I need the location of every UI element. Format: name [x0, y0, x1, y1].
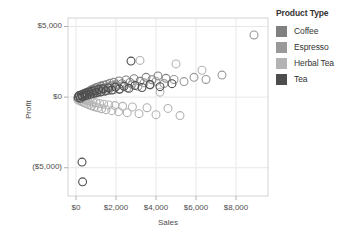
y-axis-title: Profit	[24, 100, 33, 119]
y-tick-label: ($5,000)	[32, 162, 62, 171]
data-point	[198, 66, 206, 74]
data-point	[164, 104, 172, 112]
data-point	[136, 56, 144, 64]
data-point	[154, 72, 162, 80]
x-tick-label: $8,000	[206, 203, 266, 212]
x-axis-title: Sales	[68, 218, 268, 227]
legend-item-label: Coffee	[294, 26, 318, 36]
data-point	[78, 158, 86, 166]
data-point	[143, 104, 151, 112]
data-point	[176, 112, 184, 120]
legend-item-label: Espresso	[294, 42, 329, 52]
data-point	[128, 103, 136, 111]
legend-color-swatch	[276, 26, 287, 37]
legend-item-label: Tea	[294, 74, 307, 84]
legend-color-swatch	[276, 74, 287, 85]
data-point	[79, 178, 87, 186]
legend-item-label: Herbal Tea	[294, 58, 334, 68]
data-point	[250, 31, 258, 39]
chart-plot-area: $5,000$0($5,000)$0$2,000$4,000$6,000$8,0…	[0, 0, 272, 241]
legend-color-swatch	[276, 42, 287, 53]
data-point	[218, 71, 226, 79]
legend-items-container: CoffeeEspressoHerbal TeaTea	[276, 23, 356, 87]
data-point	[190, 73, 198, 81]
legend-title: Product Type	[276, 8, 356, 18]
data-point	[202, 76, 210, 84]
legend: Product Type CoffeeEspressoHerbal TeaTea	[276, 8, 356, 87]
legend-color-swatch	[276, 58, 287, 69]
legend-item-coffee[interactable]: Coffee	[276, 23, 356, 39]
data-point	[172, 60, 180, 68]
y-tick-label: $0	[53, 92, 62, 101]
y-tick-label: $5,000	[38, 21, 62, 30]
data-point	[180, 78, 188, 86]
data-point	[135, 110, 143, 118]
legend-item-herbal-tea[interactable]: Herbal Tea	[276, 55, 356, 71]
legend-item-espresso[interactable]: Espresso	[276, 39, 356, 55]
data-point	[127, 57, 135, 65]
scatter-plot-visualization: $5,000$0($5,000)$0$2,000$4,000$6,000$8,0…	[0, 0, 356, 241]
legend-item-tea[interactable]: Tea	[276, 71, 356, 87]
